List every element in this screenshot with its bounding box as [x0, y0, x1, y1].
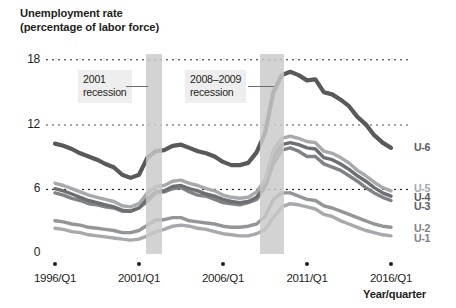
series-u1 — [55, 204, 391, 240]
y-tick-12: 12 — [18, 117, 40, 131]
x-tick-label-2006: 2006/Q1 — [188, 272, 258, 284]
x-tick-label-2016: 2016/Q1 — [356, 272, 426, 284]
x-tick-dot-2016 — [389, 262, 393, 266]
callout-2001-leader-line — [126, 86, 148, 87]
chart-title-line-2: (percentage of labor force) — [20, 20, 159, 34]
chart-title: Unemployment rate (percentage of labor f… — [20, 6, 159, 34]
callout-2001-line-1: 2001 — [83, 73, 127, 86]
series-label-u1: U-1 — [414, 232, 430, 244]
callout-2008-line-2: recession — [190, 86, 241, 99]
plot-area: 2001 recession 2008–2009 recession — [46, 55, 412, 258]
callout-2001-line-2: recession — [83, 86, 127, 99]
callout-2008-line-1: 2008–2009 — [190, 73, 241, 86]
recession-band-2008-2009 — [260, 54, 284, 254]
x-tick-dot-2001 — [137, 262, 141, 266]
callout-2008-2009-recession: 2008–2009 recession — [185, 70, 246, 103]
recession-band-2001 — [146, 54, 162, 254]
callout-2008-leader-line — [248, 86, 274, 87]
callout-2001-recession: 2001 recession — [78, 70, 132, 103]
x-axis-caption: Year/quarter — [363, 288, 426, 300]
x-tick-label-2011: 2011/Q1 — [272, 272, 342, 284]
x-tick-label-2001: 2001/Q1 — [104, 272, 174, 284]
y-tick-0: 0 — [18, 245, 40, 259]
chart-title-line-1: Unemployment rate — [20, 6, 159, 20]
series-label-u6: U-6 — [414, 141, 430, 153]
y-tick-6: 6 — [18, 181, 40, 195]
series-label-u3: U-3 — [414, 200, 430, 212]
x-tick-dot-2006 — [221, 262, 225, 266]
x-tick-label-1996: 1996/Q1 — [20, 272, 90, 284]
x-tick-dot-2011 — [305, 262, 309, 266]
y-tick-18: 18 — [18, 52, 40, 66]
chart-figure: Unemployment rate (percentage of labor f… — [0, 0, 456, 308]
x-tick-dot-1996 — [53, 262, 57, 266]
